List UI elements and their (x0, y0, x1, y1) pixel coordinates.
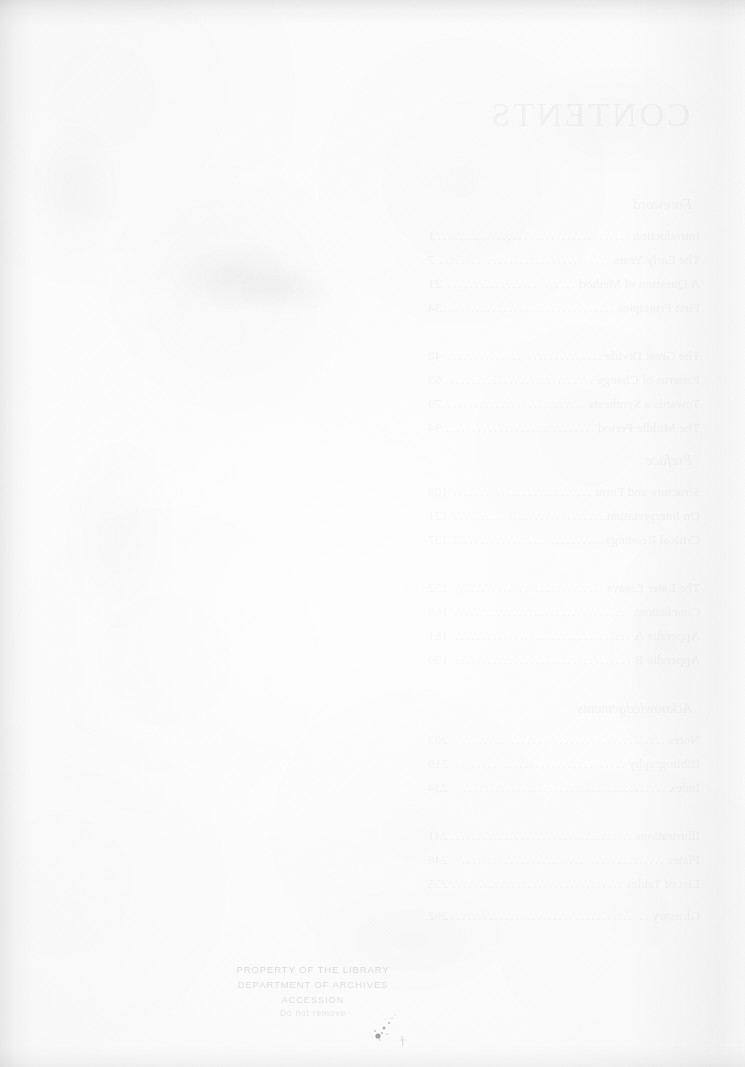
scanned-page: CONTENTS ForewordPrefaceAcknowledgements… (0, 0, 745, 1067)
page-gutter-shadow-right (625, 0, 745, 1067)
page-edge-shadow-left (0, 0, 34, 1067)
page-edge-shadow-bottom (0, 1045, 745, 1067)
